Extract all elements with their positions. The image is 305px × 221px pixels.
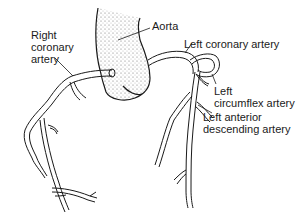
aorta-label: Aorta [152, 20, 178, 32]
right-coronary-artery-label-line1: Right [31, 29, 57, 41]
right-coronary-artery-label-line3: artery [31, 53, 59, 65]
left-circumflex-artery-label-line1: Left [214, 85, 232, 97]
right-coronary-artery-label-line2: coronary [31, 41, 74, 53]
coronary-artery-diagram: Aorta Left coronary artery Right coronar… [0, 0, 305, 221]
left-anterior-descending-artery-label-line2: descending artery [203, 123, 290, 135]
left-anterior-descending-artery-label-line1: Left anterior [203, 111, 262, 123]
left-circumflex-artery-label-line2: circumflex artery [214, 97, 295, 109]
left-coronary-artery-label: Left coronary artery [184, 38, 279, 50]
left-circumflex-leader [212, 74, 216, 84]
right-coronary-artery [24, 69, 115, 212]
